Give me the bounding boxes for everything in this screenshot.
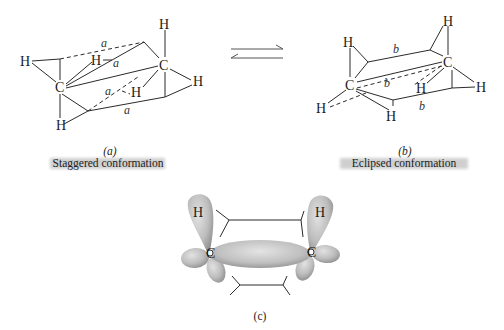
distance-label-a: a (124, 103, 130, 117)
carbon-atom: C (55, 80, 64, 95)
carbon-atom: C (307, 245, 316, 260)
eclipsed-caption: Eclipsed conformation (352, 157, 457, 170)
distance-label-a: a (105, 84, 111, 98)
hydrogen-atom: H (56, 118, 66, 133)
carbon-atom: C (345, 78, 354, 93)
hydrogen-atom: H (91, 53, 101, 68)
eclipsed-conformation-diagram: H C H H H C H H b b b (b) Eclipsed confo… (316, 14, 486, 170)
hydrogen-atom: H (316, 101, 326, 116)
distance-label-a: a (101, 36, 107, 50)
distance-label-b: b (384, 76, 390, 90)
hydrogen-atom: H (159, 17, 169, 32)
carbon-atom: C (159, 58, 168, 73)
hydrogen-atom: H (386, 109, 396, 124)
distance-label-b: b (419, 99, 425, 113)
hydrogen-atom: H (315, 205, 325, 220)
hydrogen-atom: H (443, 14, 453, 29)
hydrogen-atom: H (131, 85, 141, 100)
distance-label-a: a (113, 56, 119, 70)
staggered-conformation-diagram: H C H H H C H H a a a a (a) Staggered co… (20, 17, 203, 170)
staggered-caption: Staggered conformation (53, 157, 164, 170)
orbital-overlap-diagram: C C H H (c) (180, 194, 341, 323)
sigma-bond-orbital (209, 240, 311, 268)
carbon-atom: C (206, 246, 215, 261)
ethane-conformations-diagram: H C H H H C H H a a a a (a) Staggered co… (0, 0, 504, 330)
hydrogen-atom: H (343, 35, 353, 50)
carbon-atom: C (443, 55, 452, 70)
panel-c-tag: (c) (254, 310, 267, 323)
hydrogen-atom: H (416, 81, 426, 96)
distance-label-b: b (393, 42, 399, 56)
hydrogen-atom: H (193, 205, 203, 220)
equilibrium-arrows-icon (231, 45, 283, 58)
hydrogen-atom: H (193, 74, 203, 89)
hydrogen-atom: H (476, 80, 486, 95)
hydrogen-atom: H (20, 54, 30, 69)
